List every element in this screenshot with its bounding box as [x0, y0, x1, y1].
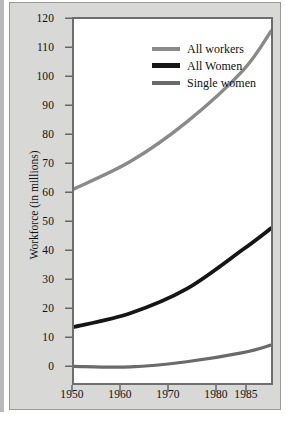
x-tick-1950: 1950: [52, 389, 92, 401]
figure-caption-clipped: [10, 416, 275, 426]
legend-swatch-single-women: [152, 81, 180, 85]
legend-swatch-all-workers: [152, 47, 180, 51]
y-tick-120: 120: [24, 13, 54, 25]
legend-label-single-women: Single women: [187, 77, 256, 89]
legend-item-single-women: Single women: [152, 75, 284, 90]
chart-panel: Workforce (in millions) 120 110 100 90 8…: [9, 2, 281, 410]
line-single-women: [74, 345, 271, 367]
y-tick-0: 0: [24, 361, 54, 373]
y-tick-60: 60: [24, 187, 54, 199]
legend-swatch-all-women: [152, 63, 180, 68]
y-tick-50: 50: [24, 216, 54, 228]
y-tick-100: 100: [24, 71, 54, 83]
figure-container: Workforce (in millions) 120 110 100 90 8…: [0, 0, 285, 426]
legend-label-all-workers: All workers: [187, 43, 244, 55]
y-tick-30: 30: [24, 274, 54, 286]
page-edge-rule: [0, 0, 4, 412]
chart-legend: All workers All Women Single women: [152, 41, 284, 92]
y-tick-20: 20: [24, 303, 54, 315]
plot-area: All workers All Women Single women: [72, 17, 273, 385]
x-tick-1960: 1960: [100, 389, 140, 401]
x-tick-1985: 1985: [226, 389, 266, 401]
line-all-women: [74, 228, 271, 327]
y-tick-40: 40: [24, 245, 54, 257]
legend-item-all-workers: All workers: [152, 41, 284, 56]
legend-item-all-women: All Women: [152, 58, 284, 73]
y-tick-80: 80: [24, 129, 54, 141]
y-tick-70: 70: [24, 158, 54, 170]
y-tick-110: 110: [24, 42, 54, 54]
x-tick-1970: 1970: [148, 389, 188, 401]
y-tick-90: 90: [24, 100, 54, 112]
legend-label-all-women: All Women: [187, 60, 242, 72]
y-tick-10: 10: [24, 332, 54, 344]
